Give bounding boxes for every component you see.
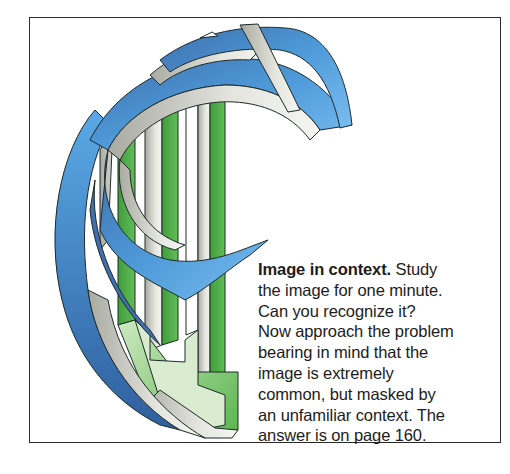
caption-line: Now approach the problem bbox=[258, 321, 498, 342]
caption-line: the image for one minute. bbox=[258, 280, 498, 301]
caption-line: image is extremely bbox=[258, 363, 498, 384]
caption: Image in context. Study the image for on… bbox=[258, 259, 498, 446]
caption-line: common, but masked by bbox=[258, 384, 498, 405]
caption-line: Can you recognize it? bbox=[258, 301, 498, 322]
caption-line: answer is on page 160. bbox=[258, 425, 498, 446]
caption-line: an unfamiliar context. The bbox=[258, 405, 498, 426]
caption-line: bearing in mind that the bbox=[258, 342, 498, 363]
caption-line: Study bbox=[396, 260, 438, 278]
caption-title: Image in context. bbox=[258, 260, 391, 278]
